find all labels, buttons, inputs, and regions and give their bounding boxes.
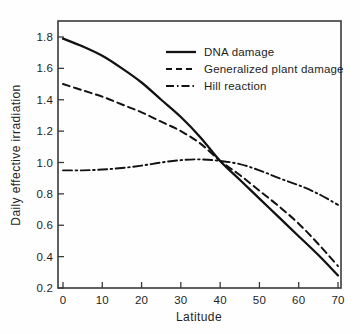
legend-label: Hill reaction [204,80,267,92]
series-line-generalized-plant-damage [63,84,338,266]
x-tick-label: 20 [135,294,148,306]
y-tick-label: 0.4 [36,251,53,263]
x-tick-label: 60 [292,294,305,306]
x-tick-label: 30 [174,294,187,306]
legend-label: Generalized plant damage [204,63,344,75]
y-tick-label: 1.0 [36,157,53,169]
x-tick-label: 40 [214,294,227,306]
y-tick-label: 1.4 [36,94,53,106]
series-line-hill-reaction [63,159,338,205]
x-axis-title: Latitude [176,310,222,324]
y-axis-tick-labels: 0.20.40.60.81.01.21.41.61.8 [36,31,53,294]
y-tick-label: 0.8 [36,188,53,200]
line-chart: 0.20.40.60.81.01.21.41.61.8 010203040506… [0,0,360,334]
x-tick-label: 70 [331,294,344,306]
y-tick-label: 1.2 [36,125,53,137]
y-tick-label: 0.2 [36,282,53,294]
x-axis-tick-labels: 010203040506070 [60,294,345,306]
y-axis-title: Daily effective irradiation [9,84,23,225]
y-tick-label: 1.6 [36,62,53,74]
legend: DNA damageGeneralized plant damageHill r… [166,46,344,92]
chart-figure: 0.20.40.60.81.01.21.41.61.8 010203040506… [0,0,360,334]
plot-frame [58,21,341,288]
x-tick-label: 50 [253,294,266,306]
x-tick-label: 0 [60,294,67,306]
y-tick-label: 1.8 [36,31,53,43]
legend-label: DNA damage [204,46,274,58]
y-axis-ticks [58,37,64,288]
x-tick-label: 10 [96,294,109,306]
x-axis-ticks [63,282,338,288]
y-tick-label: 0.6 [36,219,53,231]
